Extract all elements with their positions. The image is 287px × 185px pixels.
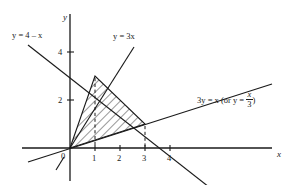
label-line-3y-equals-x: 3y = x (or y = x3) [197,90,255,108]
y-tick-label-2: 2 [58,96,62,105]
x-tick-label-3: 3 [142,154,146,163]
origin-tick-label: 0 [61,152,65,161]
graph-figure: y x 0 1 2 3 4 2 4 y = 4 – x y = 3x 3y = … [0,0,287,185]
y-axis-label: y [63,13,67,22]
y-tick-label-4: 4 [58,48,62,57]
x-axis-label: x [277,150,281,159]
x-tick-label-2: 2 [117,154,121,163]
x-tick-label-1: 1 [92,154,96,163]
label-line-y-equals-3x: y = 3x [113,32,135,41]
label-3y-equals-x-lead: 3y = x (or y = [197,95,246,105]
label-line-y-equals-4-minus-x: y = 4 – x [12,31,42,40]
label-3y-equals-x-tail: ) [253,95,256,105]
x-tick-label-4: 4 [167,154,171,163]
